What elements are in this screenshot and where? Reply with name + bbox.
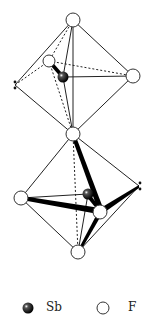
f-atom-bridge bbox=[66, 127, 80, 141]
lone-pair-lower bbox=[139, 182, 142, 191]
sb-atom-lower bbox=[83, 189, 94, 200]
lower-wedge-bonds bbox=[22, 134, 139, 252]
f-atom-lower-right bbox=[93, 205, 107, 219]
sb-atom-upper bbox=[58, 72, 69, 83]
legend-f-icon bbox=[97, 302, 109, 314]
f-atom-lower-left bbox=[14, 191, 28, 205]
legend-f-label: F bbox=[128, 300, 136, 314]
f-atom-bottom bbox=[71, 245, 85, 259]
f-atom-top bbox=[66, 13, 80, 27]
legend-sb-icon bbox=[23, 303, 34, 314]
upper-octahedron-edges bbox=[15, 20, 133, 134]
structure-diagram bbox=[0, 0, 145, 327]
legend-sb-label: Sb bbox=[46, 300, 62, 314]
f-atom-upper-right bbox=[126, 69, 140, 83]
f-atom-upper-left bbox=[43, 55, 55, 67]
